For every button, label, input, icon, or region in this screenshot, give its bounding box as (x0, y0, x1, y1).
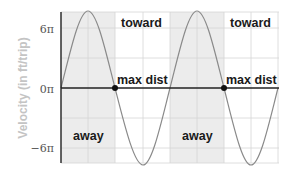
y-tick-neg6pi: −6π (31, 142, 54, 155)
y-tick-6pi: 6π (40, 23, 54, 36)
away-label-2: away (182, 129, 213, 143)
y-tick-0pi: 0π (40, 83, 54, 96)
chart: 6π 0π −6π Velocity (in ft/trip) toward t… (0, 0, 285, 177)
max-dist-label-1: max dist (117, 73, 169, 87)
toward-label-1: toward (121, 16, 162, 30)
y-axis-label: Velocity (in ft/trip) (16, 37, 30, 138)
away-label-1: away (73, 129, 104, 143)
max-dist-label-2: max dist (226, 73, 278, 87)
toward-label-2: toward (230, 16, 271, 30)
